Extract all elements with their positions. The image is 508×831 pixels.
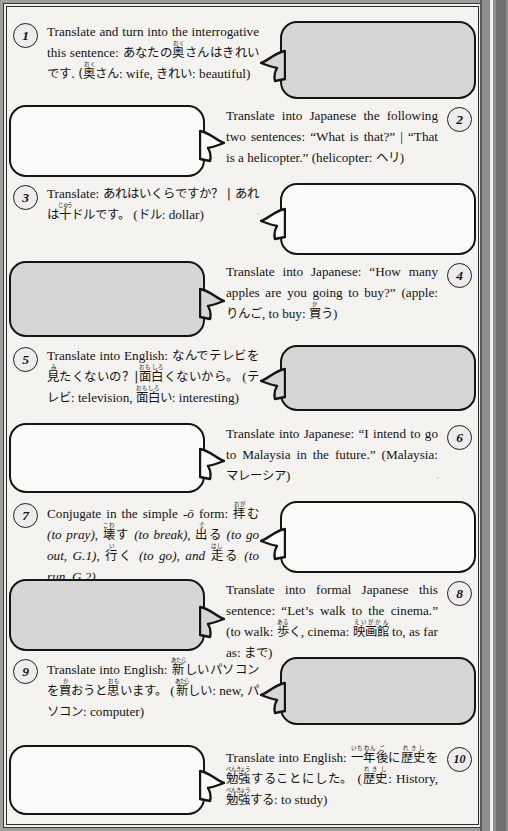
paper-speckle: [347, 597, 349, 599]
answer-bubble-wrap: [264, 345, 476, 411]
answer-bubble-wrap: [9, 745, 221, 815]
speech-bubble-tail-icon: [260, 681, 286, 715]
answer-bubble[interactable]: [280, 183, 476, 255]
exercise-row: 4Translate into Japanese: “How many appl…: [7, 261, 478, 337]
answer-bubble-wrap: [264, 501, 476, 573]
worksheet-page: 1Translate and turn into the interrogati…: [0, 0, 508, 831]
exercise-row: 7Conjugate in the simple -ō form: 拝おがむ (…: [7, 501, 478, 587]
exercise-number-badge: 5: [13, 347, 38, 372]
exercise-number-badge: 7: [13, 503, 38, 528]
exercise-row-inner: 6Translate into Japanese: “I intend to g…: [7, 423, 478, 493]
paper-speckle: [207, 697, 208, 698]
answer-bubble-wrap: [9, 579, 221, 651]
exercise-number-badge: 9: [13, 659, 38, 684]
exercise-row-inner: 3Translate: あれはいくらですか？ | あれは十じゅうドルです。 (ド…: [7, 183, 478, 255]
speech-bubble-tail-icon: [260, 367, 286, 401]
exercise-number-badge: 1: [13, 23, 38, 48]
exercise-row-inner: 4Translate into Japanese: “How many appl…: [7, 261, 478, 337]
exercise-prompt-text: Translate into English: なんでテレビを見みたくないの？|…: [42, 345, 264, 408]
exercise-row: 8Translate into formal Japanese this sen…: [7, 579, 478, 663]
answer-bubble-wrap: [264, 21, 476, 99]
answer-bubble[interactable]: [9, 745, 205, 815]
answer-bubble[interactable]: [280, 21, 476, 99]
exercise-prompt-text: Translate into English: 一年いちねん後ごに歴史れきしを勉…: [221, 745, 443, 810]
exercise-row: 3Translate: あれはいくらですか？ | あれは十じゅうドルです。 (ド…: [7, 183, 478, 255]
paper-speckle: [97, 137, 98, 138]
exercise-sheet: 1Translate and turn into the interrogati…: [6, 6, 479, 825]
exercise-prompt-text: Translate and turn into the interrogativ…: [42, 21, 264, 84]
answer-bubble[interactable]: [280, 657, 476, 725]
answer-bubble-wrap: [9, 105, 221, 177]
paper-speckle: [307, 43, 309, 45]
exercise-number-badge: 4: [447, 263, 472, 288]
exercise-row: 2Translate into Japanese the following t…: [7, 105, 478, 177]
exercise-row: 9Translate into English: 新あたらしいパソコンを買かおう…: [7, 657, 478, 725]
exercise-prompt-text: Translate: あれはいくらですか？ | あれは十じゅうドルです。 (ドル…: [42, 183, 264, 225]
answer-bubble[interactable]: [280, 345, 476, 411]
exercise-row-inner: 8Translate into formal Japanese this sen…: [7, 579, 478, 663]
exercise-number-badge: 6: [447, 425, 472, 450]
answer-bubble[interactable]: [280, 501, 476, 573]
paper-speckle: [127, 307, 128, 308]
exercise-row: 6Translate into Japanese: “I intend to g…: [7, 423, 478, 493]
paper-speckle: [437, 477, 439, 479]
exercise-row: 1Translate and turn into the interrogati…: [7, 21, 478, 99]
exercise-row-inner: 9Translate into English: 新あたらしいパソコンを買かおう…: [7, 657, 478, 725]
exercise-row-inner: 1Translate and turn into the interrogati…: [7, 21, 478, 99]
answer-bubble[interactable]: [9, 579, 205, 651]
answer-bubble-wrap: [264, 183, 476, 255]
answer-bubble-wrap: [9, 261, 221, 337]
exercise-row-inner: 7Conjugate in the simple -ō form: 拝おがむ (…: [7, 501, 478, 587]
exercise-prompt-text: Translate into Japanese: “I intend to go…: [221, 423, 443, 486]
exercise-number-badge: 10: [447, 747, 472, 772]
answer-bubble-wrap: [264, 657, 476, 725]
exercise-row-inner: 5Translate into English: なんでテレビを見みたくないの？…: [7, 345, 478, 411]
exercise-prompt-text: Translate into English: 新あたらしいパソコンを買かおうと…: [42, 657, 264, 722]
exercise-number-badge: 2: [447, 107, 472, 132]
speech-bubble-tail-icon: [260, 49, 286, 83]
answer-bubble-wrap: [9, 423, 221, 493]
exercise-row: 5Translate into English: なんでテレビを見みたくないの？…: [7, 345, 478, 411]
paper-speckle: [257, 213, 259, 215]
exercise-number-badge: 3: [13, 185, 38, 210]
exercise-prompt-text: Translate into Japanese the following tw…: [221, 105, 443, 168]
answer-bubble[interactable]: [9, 423, 205, 493]
answer-bubble[interactable]: [9, 261, 205, 337]
page-inner-frame: 1Translate and turn into the interrogati…: [3, 3, 482, 828]
exercise-row-inner: 10Translate into English: 一年いちねん後ごに歴史れきし…: [7, 745, 478, 815]
exercise-prompt-text: Translate into formal Japanese this sent…: [221, 579, 443, 663]
speech-bubble-tail-icon: [260, 207, 286, 241]
exercise-prompt-text: Translate into Japanese: “How many apple…: [221, 261, 443, 324]
exercise-row: 10Translate into English: 一年いちねん後ごに歴史れきし…: [7, 745, 478, 815]
answer-bubble[interactable]: [9, 105, 205, 177]
exercise-prompt-text: Conjugate in the simple -ō form: 拝おがむ (t…: [42, 501, 264, 587]
exercise-row-inner: 2Translate into Japanese the following t…: [7, 105, 478, 177]
page-gutter-shadow: [480, 0, 508, 831]
exercise-number-badge: 8: [447, 581, 472, 606]
speech-bubble-tail-icon: [260, 527, 286, 561]
